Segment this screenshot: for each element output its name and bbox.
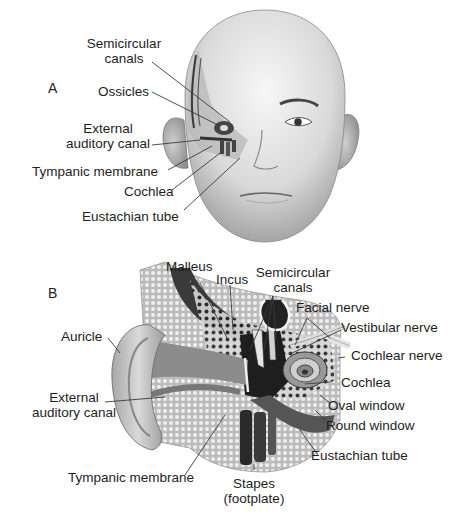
label-b-external-auditory-canal-line2: auditory canal [26, 405, 122, 420]
label-b-eustachian-tube: Eustachian tube [311, 448, 408, 463]
label-a-tympanic-membrane: Tympanic membrane [32, 164, 158, 179]
panel-a-letter: A [48, 80, 57, 96]
label-b-stapes-line2: (footplate) [222, 491, 286, 506]
label-b-external-auditory-canal-line1: External [26, 390, 122, 405]
label-b-auricle: Auricle [61, 329, 102, 344]
label-a-external-auditory-canal-line1: External [58, 121, 158, 136]
label-a-semicircular-canals-line2: canals [84, 51, 164, 66]
label-a-ossicles: Ossicles [98, 84, 149, 99]
label-a-semicircular-canals-line1: Semicircular [84, 36, 164, 51]
label-a-eustachian-tube: Eustachian tube [82, 209, 179, 224]
label-b-vestibular-nerve: Vestibular nerve [341, 320, 438, 335]
label-b-semicircular-canals-line2: canals [252, 280, 334, 295]
label-b-stapes: Stapes (footplate) [222, 476, 286, 506]
panel-a-head-drawing [163, 10, 359, 242]
panel-b-letter: B [48, 285, 57, 301]
label-b-round-window: Round window [326, 418, 415, 433]
label-b-malleus: Malleus [166, 259, 213, 274]
label-b-oval-window: Oval window [328, 398, 405, 413]
label-a-cochlea: Cochlea [124, 184, 174, 199]
label-b-semicircular-canals-line1: Semicircular [252, 265, 334, 280]
label-b-tympanic-membrane: Tympanic membrane [68, 470, 194, 485]
label-a-semicircular-canals: Semicircular canals [84, 36, 164, 66]
label-a-external-auditory-canal: External auditory canal [58, 121, 158, 151]
label-b-facial-nerve: Facial nerve [296, 300, 370, 315]
label-b-cochlear-nerve: Cochlear nerve [351, 348, 443, 363]
ear-anatomy-illustration [0, 0, 462, 521]
label-b-stapes-line1: Stapes [222, 476, 286, 491]
label-b-cochlea: Cochlea [341, 375, 391, 390]
label-b-incus: Incus [216, 272, 248, 287]
label-b-semicircular-canals: Semicircular canals [252, 265, 334, 295]
label-a-external-auditory-canal-line2: auditory canal [58, 136, 158, 151]
label-b-external-auditory-canal: External auditory canal [26, 390, 122, 420]
